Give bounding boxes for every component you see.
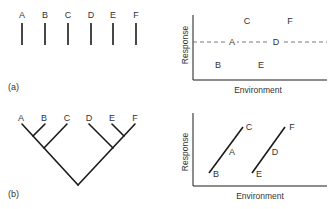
point-label: F — [287, 16, 293, 26]
tree-branches — [22, 124, 135, 185]
point-label: A — [229, 37, 235, 47]
taxon-branches — [22, 23, 136, 45]
point-label: D — [272, 147, 279, 157]
taxon-label: C — [65, 10, 72, 20]
panel-tag-b: (b) — [8, 189, 19, 199]
point-label: B — [213, 169, 219, 179]
point-label: C — [244, 16, 251, 26]
taxon-label: F — [133, 10, 139, 20]
point-label: E — [256, 169, 262, 179]
point-label: F — [289, 122, 295, 132]
x-axis-label: Environment — [236, 191, 284, 201]
taxon-label: B — [41, 113, 47, 123]
panel-b-tree: A B C D E F (b) — [8, 113, 138, 199]
point-label: A — [229, 147, 235, 157]
taxon-label: D — [88, 10, 95, 20]
panel-b-plot: B A C E D F Environment Response — [180, 113, 327, 201]
taxon-label: E — [110, 10, 116, 20]
point-label: C — [246, 122, 253, 132]
taxon-label: A — [18, 113, 24, 123]
x-axis-label: Environment — [234, 85, 282, 95]
taxon-label: A — [19, 10, 25, 20]
taxon-label: C — [64, 113, 71, 123]
taxon-label: D — [86, 113, 93, 123]
taxon-label: B — [42, 10, 48, 20]
reaction-line-abc — [209, 127, 243, 173]
y-axis-label: Response — [180, 133, 190, 172]
panel-tag-a: (a) — [8, 82, 19, 92]
taxon-label: F — [132, 113, 138, 123]
y-axis-label: Response — [180, 26, 190, 65]
point-label: B — [215, 60, 221, 70]
panel-a-taxa: A B C D E F (a) — [8, 10, 139, 92]
point-label: E — [258, 60, 264, 70]
taxon-label: E — [109, 113, 115, 123]
reaction-line-def — [252, 127, 285, 173]
point-label: D — [273, 37, 280, 47]
plot-axes — [193, 15, 327, 80]
panel-a-plot: C F A D B E Environment Response — [180, 15, 327, 95]
figure: A B C D E F (a) C F A D B E Environment … — [0, 0, 328, 209]
